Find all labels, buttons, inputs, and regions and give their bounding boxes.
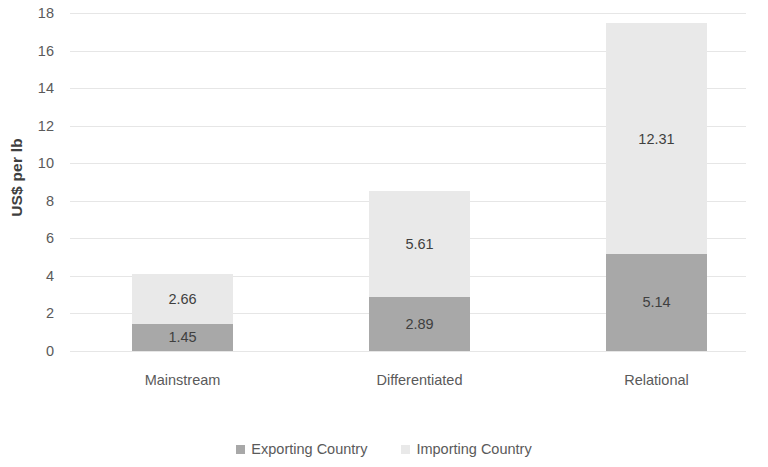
y-tick-label: 18: [8, 6, 54, 21]
legend-swatch-icon: [401, 445, 410, 454]
y-tick-label: 12: [8, 118, 54, 133]
y-tick-label: 16: [8, 43, 54, 58]
legend-label: Importing Country: [416, 441, 531, 457]
y-tick-label: 10: [8, 156, 54, 171]
x-category-label: Relational: [567, 372, 747, 388]
y-tick-label: 0: [8, 344, 54, 359]
legend-swatch-icon: [236, 445, 245, 454]
bar-segment-exporting[interactable]: 2.89: [369, 297, 470, 351]
bar-value-label: 12.31: [638, 132, 674, 147]
legend-label: Exporting Country: [251, 441, 367, 457]
bar-segment-exporting[interactable]: 1.45: [132, 324, 233, 351]
bar-value-label: 2.89: [405, 317, 433, 332]
bar-segment-importing[interactable]: 5.61: [369, 191, 470, 296]
bar-group-relational[interactable]: 12.315.14: [606, 23, 707, 351]
bar-group-mainstream[interactable]: 2.661.45: [132, 274, 233, 351]
bar-group-differentiated[interactable]: 5.612.89: [369, 191, 470, 351]
chart-legend: Exporting CountryImporting Country: [0, 441, 768, 457]
bar-value-label: 5.61: [405, 237, 433, 252]
bar-value-label: 5.14: [642, 295, 670, 310]
bar-value-label: 2.66: [168, 292, 196, 307]
y-tick-label: 2: [8, 306, 54, 321]
bar-segment-importing[interactable]: 12.31: [606, 23, 707, 254]
bar-segment-importing[interactable]: 2.66: [132, 274, 233, 324]
plot-area: 181614121086420 2.661.455.612.8912.315.1…: [70, 13, 746, 351]
gridline: [70, 351, 746, 352]
y-tick-label: 14: [8, 81, 54, 96]
stacked-bar-chart: US$ per lb 181614121086420 2.661.455.612…: [0, 0, 768, 467]
legend-item-importing[interactable]: Importing Country: [401, 441, 531, 457]
x-category-label: Mainstream: [93, 372, 273, 388]
y-tick-label: 4: [8, 269, 54, 284]
y-tick-label: 8: [8, 194, 54, 209]
bar-segment-exporting[interactable]: 5.14: [606, 254, 707, 351]
x-category-label: Differentiated: [330, 372, 510, 388]
bar-value-label: 1.45: [168, 330, 196, 345]
y-tick-label: 6: [8, 231, 54, 246]
gridline: [70, 13, 746, 14]
legend-item-exporting[interactable]: Exporting Country: [236, 441, 367, 457]
